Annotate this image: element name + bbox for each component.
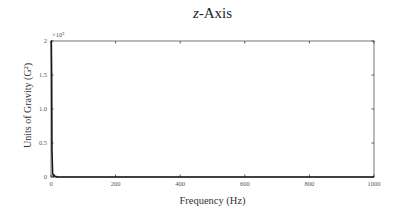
x-tick-label: 800: [305, 180, 315, 187]
axes-box: [51, 41, 374, 177]
y-multiplier: ×10⁵: [52, 31, 64, 38]
y-tick-label: 1.5: [39, 71, 47, 78]
x-tick-label: 600: [240, 180, 250, 187]
y-tick-label: 0: [44, 173, 47, 180]
y-tick-label: 1.0: [39, 105, 47, 112]
x-tick-label: 1000: [368, 180, 381, 187]
x-tick-label: 400: [175, 180, 185, 187]
x-tick-label: 200: [111, 180, 121, 187]
data-line: [51, 41, 374, 177]
y-tick-label: 2: [44, 37, 47, 44]
x-tick-label: 0: [49, 180, 52, 187]
plot-area: 0200400600800100000.51.01.52×10⁵: [0, 0, 395, 215]
y-tick-label: 0.5: [39, 139, 47, 146]
